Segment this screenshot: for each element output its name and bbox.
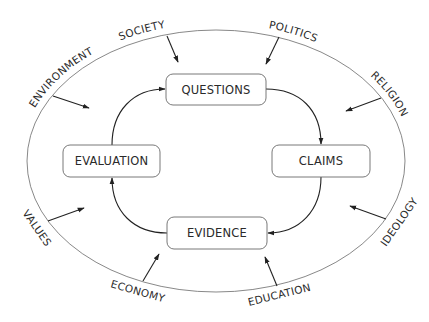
arrow-claims-to-evidence — [268, 177, 321, 233]
arrow-society — [167, 36, 178, 62]
label-religion: RELIGION — [369, 69, 411, 119]
node-label: QUESTIONS — [181, 83, 250, 97]
arrow-religion — [346, 98, 381, 111]
arrow-education — [265, 257, 277, 286]
node-evaluation: EVALUATION — [63, 145, 160, 177]
arrow-economy — [143, 254, 159, 281]
arrow-questions-to-claims — [266, 89, 321, 144]
diagram-canvas: ENVIRONMENT SOCIETY POLITICS RELIGION VA… — [0, 0, 429, 322]
node-claims: CLAIMS — [272, 145, 370, 177]
label-society: SOCIETY — [117, 18, 166, 43]
node-label: CLAIMS — [299, 154, 343, 168]
arrow-evidence-to-evaluation — [112, 178, 167, 233]
label-environment: ENVIRONMENT — [26, 44, 95, 109]
arrow-evaluation-to-questions — [112, 89, 165, 145]
node-questions: QUESTIONS — [166, 74, 266, 105]
label-politics: POLITICS — [268, 18, 320, 44]
label-economy: ECONOMY — [109, 277, 166, 304]
node-label: EVIDENCE — [187, 226, 247, 240]
arrow-ideology — [350, 206, 386, 219]
arrow-values — [48, 208, 84, 221]
arrow-environment — [53, 96, 89, 108]
influence-labels-bottom: VALUES ECONOMY EDUCATION IDEOLOGY — [20, 195, 420, 308]
node-label: EVALUATION — [75, 154, 149, 168]
label-values: VALUES — [20, 207, 54, 248]
label-ideology: IDEOLOGY — [378, 195, 420, 248]
arrow-politics — [266, 37, 279, 64]
node-evidence: EVIDENCE — [167, 217, 267, 249]
